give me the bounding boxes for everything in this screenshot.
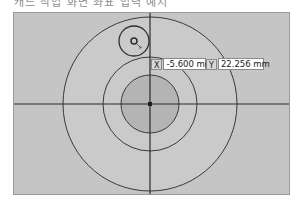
y-label: Y [206,59,217,70]
x-coordinate-input[interactable]: -5.600 mm [163,58,206,70]
cad-drawing[interactable] [0,0,298,204]
center-point-marker[interactable] [148,102,152,106]
x-label: X [151,59,162,70]
x-coordinate-group: X -5.600 mm [151,58,206,70]
y-coordinate-input[interactable]: 22.256 mm [218,58,264,70]
y-coordinate-group: Y 22.256 mm [206,58,264,70]
